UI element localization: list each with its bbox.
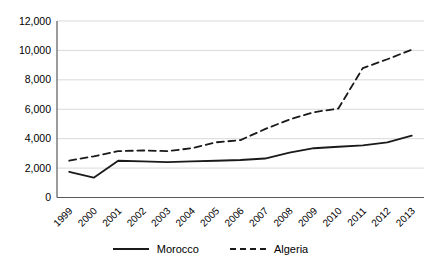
x-axis-label: 2007 bbox=[247, 205, 271, 229]
y-axis-label: 6,000 bbox=[25, 103, 51, 115]
morocco-line bbox=[69, 136, 412, 178]
x-axis-label: 2003 bbox=[149, 205, 173, 229]
x-axis-label: 2011 bbox=[345, 205, 368, 228]
x-axis-label: 2012 bbox=[369, 205, 393, 229]
x-axis-label: 2010 bbox=[320, 205, 344, 229]
x-axis-label: 2006 bbox=[222, 205, 246, 229]
x-axis-label: 2000 bbox=[76, 205, 100, 229]
x-axis-label: 1999 bbox=[51, 205, 75, 229]
y-axis-label: 0 bbox=[45, 191, 51, 203]
plot-area: 02,0004,0006,0008,00010,00012,0001999200… bbox=[0, 0, 438, 268]
dashed-line-swatch bbox=[229, 244, 267, 254]
x-axis-label: 2013 bbox=[394, 205, 418, 229]
x-axis-label: 2005 bbox=[198, 205, 222, 229]
x-axis-label: 2002 bbox=[125, 205, 149, 229]
chart-legend: Morocco Algeria bbox=[0, 237, 438, 261]
solid-line-swatch bbox=[112, 244, 150, 254]
y-axis-label: 8,000 bbox=[25, 73, 51, 85]
x-axis-label: 2008 bbox=[271, 205, 295, 229]
legend-item-morocco: Morocco bbox=[112, 243, 199, 255]
x-axis-label: 2004 bbox=[173, 205, 197, 229]
x-axis-label: 2009 bbox=[296, 205, 320, 229]
y-axis-label: 4,000 bbox=[25, 132, 51, 144]
legend-item-algeria: Algeria bbox=[229, 243, 308, 255]
legend-label-algeria: Algeria bbox=[274, 243, 308, 255]
y-axis-label: 10,000 bbox=[19, 44, 51, 56]
x-axis-label: 2001 bbox=[100, 205, 124, 229]
y-axis-label: 12,000 bbox=[19, 15, 51, 27]
y-axis-label: 2,000 bbox=[25, 162, 51, 174]
legend-label-morocco: Morocco bbox=[157, 243, 199, 255]
algeria-line bbox=[69, 50, 412, 161]
